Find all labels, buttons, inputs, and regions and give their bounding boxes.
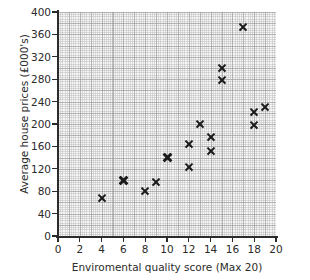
y-tick-label: 320 xyxy=(31,52,51,63)
x-tick-label: 20 xyxy=(269,244,282,255)
x-tick xyxy=(188,237,189,242)
scatter-chart: 04080120160200240280320360400 0246810121… xyxy=(0,0,310,280)
x-tick xyxy=(79,237,80,242)
y-tick xyxy=(52,146,57,147)
y-tick xyxy=(52,34,57,35)
y-tick xyxy=(52,235,57,236)
x-tick xyxy=(101,237,102,242)
x-tick-label: 4 xyxy=(98,244,105,255)
y-tick xyxy=(52,11,57,12)
y-tick xyxy=(52,213,57,214)
plot-area xyxy=(58,12,276,236)
x-tick xyxy=(210,237,211,242)
x-tick-label: 0 xyxy=(55,244,62,255)
y-tick-label: 200 xyxy=(31,119,51,130)
y-tick-label: 240 xyxy=(31,97,51,108)
x-tick-label: 16 xyxy=(226,244,239,255)
y-tick xyxy=(52,191,57,192)
y-tick xyxy=(52,101,57,102)
y-tick xyxy=(52,56,57,57)
x-tick xyxy=(166,237,167,242)
x-axis-title: Enviromental quality score (Max 20) xyxy=(58,261,276,273)
y-axis-title: Average house prices (£000's) xyxy=(18,14,30,214)
y-tick-label: 160 xyxy=(31,141,51,152)
y-tick-label: 400 xyxy=(31,7,51,18)
y-tick-label: 120 xyxy=(31,164,51,175)
x-tick-label: 2 xyxy=(76,244,83,255)
x-tick-label: 14 xyxy=(204,244,217,255)
y-tick-label: 0 xyxy=(44,231,51,242)
y-tick-label: 40 xyxy=(38,209,51,220)
x-tick-label: 18 xyxy=(248,244,261,255)
x-tick xyxy=(57,237,58,242)
x-tick xyxy=(232,237,233,242)
y-tick xyxy=(52,123,57,124)
x-tick xyxy=(123,237,124,242)
x-tick-label: 6 xyxy=(120,244,127,255)
x-tick xyxy=(254,237,255,242)
y-tick-label: 360 xyxy=(31,29,51,40)
y-axis-line xyxy=(57,10,59,238)
x-tick-label: 10 xyxy=(160,244,173,255)
y-tick-label: 280 xyxy=(31,74,51,85)
x-tick xyxy=(275,237,276,242)
y-tick-label: 80 xyxy=(38,186,51,197)
x-tick-label: 8 xyxy=(142,244,149,255)
x-tick xyxy=(145,237,146,242)
y-tick xyxy=(52,168,57,169)
x-tick-label: 12 xyxy=(182,244,195,255)
y-tick xyxy=(52,79,57,80)
